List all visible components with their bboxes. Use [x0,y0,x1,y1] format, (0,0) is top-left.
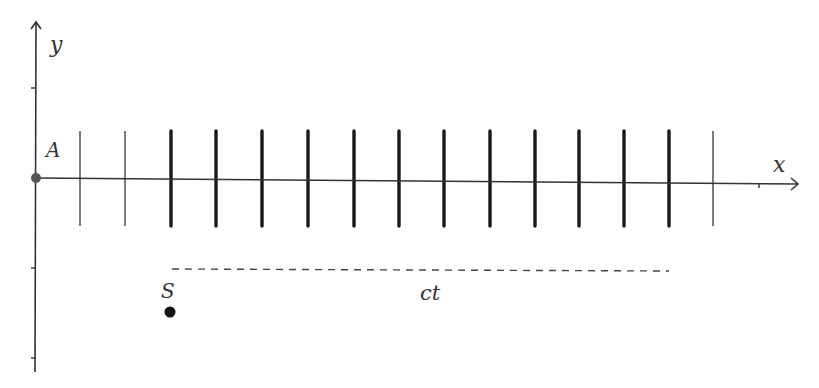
x-axis [36,178,798,184]
axes [31,22,798,372]
point-s-dot [165,307,176,318]
point-s-label: S [161,279,175,303]
axis-ticks [31,88,759,358]
x-axis-label: x [773,152,786,177]
y-axis [35,22,36,372]
ct-dashed-segment [172,269,669,271]
ct-label: ct [420,281,441,305]
points [31,173,176,318]
point-a-dot [31,173,41,183]
spacetime-diagram: x y ct A S [0,0,819,388]
point-a-label: A [44,138,60,162]
y-axis-label: y [49,32,63,57]
